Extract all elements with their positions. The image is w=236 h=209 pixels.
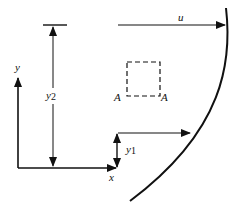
u-label: u — [178, 11, 184, 23]
dashed-element-square — [127, 62, 160, 96]
y2-label: y2 — [45, 89, 56, 102]
y-axis-label: y — [14, 61, 20, 73]
curved-wall-boundary — [130, 8, 228, 201]
x-axis-label: x — [108, 171, 114, 183]
flow-diagram: y x y2 y1 u A A — [0, 0, 236, 209]
a-label-right: A — [160, 91, 168, 103]
y1-label: y1 — [125, 143, 136, 156]
a-label-left: A — [113, 91, 121, 103]
